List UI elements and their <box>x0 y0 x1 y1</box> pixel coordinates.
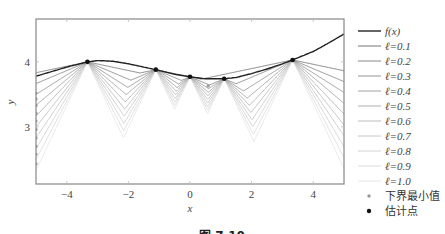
legend-item: 下界最小值 <box>367 190 440 203</box>
legend-label: 下界最小值 <box>385 190 440 203</box>
legend-label: ℓ=0.4 <box>385 85 411 97</box>
x-tick-label: 4 <box>310 188 316 200</box>
legend-label: ℓ=0.9 <box>385 160 411 172</box>
plot-frame <box>36 19 344 184</box>
lower-bound-minimum-marker <box>207 84 210 87</box>
legend-item: 估计点 <box>367 205 418 218</box>
legend-item: ℓ=0.8 <box>358 145 411 157</box>
estimate-point-marker <box>290 58 295 63</box>
y-axis-label: y <box>4 99 16 105</box>
legend-item: f(x) <box>358 25 401 38</box>
legend-dot-swatch <box>367 194 370 197</box>
x-tick-label: −2 <box>123 188 135 200</box>
legend-item: ℓ=0.1 <box>358 40 411 52</box>
legend-label: 估计点 <box>385 205 418 218</box>
x-axis-label: x <box>187 202 193 214</box>
legend-label: ℓ=0.7 <box>385 130 411 142</box>
legend-item: ℓ=1.0 <box>358 175 411 187</box>
legend-label: ℓ=0.3 <box>385 70 411 82</box>
legend-label: ℓ=0.8 <box>385 145 411 157</box>
figure-caption: 图 7.10 <box>199 229 245 234</box>
estimate-point-marker <box>154 67 159 72</box>
legend-item: ℓ=0.2 <box>358 55 411 67</box>
legend-item: ℓ=0.6 <box>358 115 411 127</box>
legend-label: ℓ=0.2 <box>385 55 411 67</box>
estimate-point-marker <box>188 75 193 80</box>
lipschitz-lower-bound-chart: −4−2024 34 x y f(x)ℓ=0.1ℓ=0.2ℓ=0.3ℓ=0.4ℓ… <box>0 0 445 234</box>
x-tick-label: −4 <box>61 188 73 200</box>
legend-label: ℓ=0.6 <box>385 115 411 127</box>
estimate-point-marker <box>85 60 90 65</box>
legend-label: ℓ=0.5 <box>385 100 411 112</box>
legend-item: ℓ=0.9 <box>358 160 411 172</box>
legend-label: ℓ=0.1 <box>385 40 411 52</box>
legend-dot-swatch <box>367 209 371 213</box>
x-tick-label: 2 <box>249 188 255 200</box>
y-tick-label: 4 <box>25 56 31 68</box>
legend-label: ℓ=1.0 <box>385 175 411 187</box>
legend-label: f(x) <box>385 25 401 38</box>
legend-item: ℓ=0.5 <box>358 100 411 112</box>
legend-item: ℓ=0.7 <box>358 130 411 142</box>
legend-item: ℓ=0.3 <box>358 70 411 82</box>
plot-area <box>34 34 344 171</box>
y-tick-label: 3 <box>25 121 31 133</box>
legend: f(x)ℓ=0.1ℓ=0.2ℓ=0.3ℓ=0.4ℓ=0.5ℓ=0.6ℓ=0.7ℓ… <box>358 25 440 218</box>
legend-item: ℓ=0.4 <box>358 85 411 97</box>
x-axis-ticks: −4−2024 <box>61 19 317 200</box>
estimate-point-marker <box>222 76 227 81</box>
x-tick-label: 0 <box>187 188 193 200</box>
